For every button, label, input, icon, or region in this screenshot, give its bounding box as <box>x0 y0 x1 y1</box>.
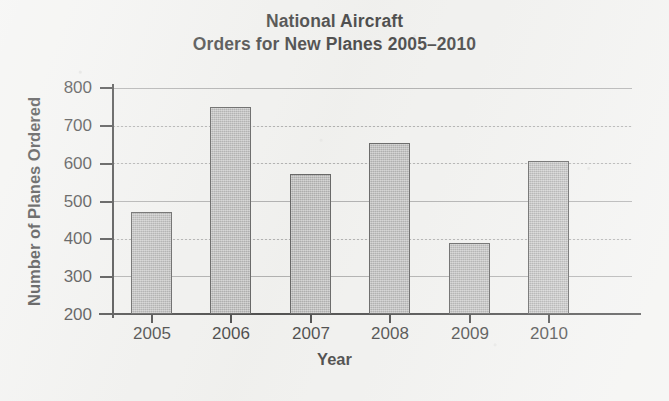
bar-chart-figure: National Aircraft Orders for New Planes … <box>0 0 669 401</box>
y-tick-mark-700 <box>100 125 113 127</box>
y-tick-label-800: 800 <box>46 79 92 96</box>
y-tick-label-600: 600 <box>46 155 92 172</box>
x-tick-mark-2008 <box>389 314 391 323</box>
bar-2010 <box>528 161 569 314</box>
x-tick-label-2008: 2008 <box>350 324 430 344</box>
y-tick-mark-600 <box>100 163 113 165</box>
x-tick-mark-2006 <box>230 314 232 323</box>
bar-2007 <box>290 174 331 315</box>
y-tick-mark-300 <box>100 276 113 278</box>
x-tick-mark-2009 <box>469 314 471 323</box>
bar-2005 <box>131 212 172 314</box>
y-tick-label-500: 500 <box>46 193 92 210</box>
y-tick-label-300: 300 <box>46 268 92 285</box>
y-tick-mark-800 <box>100 87 113 89</box>
y-tick-mark-200 <box>100 313 113 315</box>
chart-title: National Aircraft Orders for New Planes … <box>0 10 669 56</box>
plot-area <box>113 88 632 314</box>
y-tick-mark-400 <box>100 238 113 240</box>
y-axis-tick-labels: 800 700 600 500 400 300 200 <box>42 0 92 401</box>
x-tick-mark-2005 <box>151 314 153 323</box>
x-tick-label-2006: 2006 <box>191 324 271 344</box>
chart-title-line-1: National Aircraft <box>0 10 669 33</box>
y-tick-label-400: 400 <box>46 230 92 247</box>
bar-2009 <box>449 243 490 314</box>
gridline-800 <box>113 88 632 89</box>
x-axis-title: Year <box>0 350 669 369</box>
y-tick-mark-500 <box>100 201 113 203</box>
bar-2006 <box>210 107 251 314</box>
x-tick-mark-2007 <box>310 314 312 323</box>
x-tick-label-2009: 2009 <box>430 324 510 344</box>
gridline-700 <box>113 126 632 127</box>
x-tick-label-2005: 2005 <box>112 324 192 344</box>
bar-2008 <box>369 143 410 314</box>
y-tick-label-200: 200 <box>46 306 92 323</box>
x-tick-label-2010: 2010 <box>509 324 589 344</box>
x-tick-label-2007: 2007 <box>271 324 351 344</box>
y-axis-title: Number of Planes Ordered <box>25 82 44 322</box>
y-tick-label-700: 700 <box>46 117 92 134</box>
x-tick-mark-2010 <box>548 314 550 323</box>
chart-title-line-2: Orders for New Planes 2005–2010 <box>0 33 669 56</box>
